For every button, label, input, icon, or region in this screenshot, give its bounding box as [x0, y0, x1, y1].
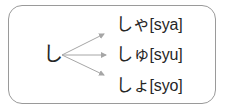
result-romaji-syu: [syu]: [150, 46, 183, 63]
result-row-syu: しゅ[syu]: [116, 43, 182, 67]
source-kana-shi: し: [40, 38, 66, 70]
result-kana-sya: しゃ: [116, 15, 150, 34]
arrow-to-sya: [62, 34, 104, 55]
result-romaji-sya: [sya]: [150, 16, 183, 33]
result-row-sya: しゃ[sya]: [116, 13, 182, 37]
arrow-to-syo: [62, 55, 104, 75]
result-romaji-syo: [syo]: [150, 77, 183, 94]
result-row-syo: しょ[syo]: [116, 74, 182, 98]
arrow-layer: [0, 0, 226, 111]
result-kana-syo: しょ: [116, 76, 150, 95]
kana-combination-diagram: し しゃ[sya] しゅ[syu] しょ[syo]: [0, 0, 226, 111]
result-kana-syu: しゅ: [116, 45, 150, 64]
